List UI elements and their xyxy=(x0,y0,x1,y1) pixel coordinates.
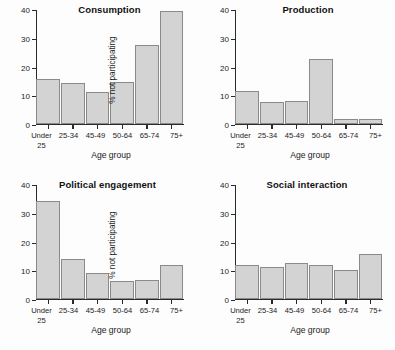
bar xyxy=(61,259,85,299)
x-axis-tick-label-line: 45-49 xyxy=(281,131,308,141)
bar xyxy=(334,119,358,124)
x-axis-label: Age group xyxy=(36,325,186,335)
x-axis-tick-label: 65-74 xyxy=(335,131,362,150)
x-axis-tick-label-line: 45-49 xyxy=(82,306,109,316)
x-axis-tick xyxy=(247,300,248,304)
x-axis-tick xyxy=(48,300,49,304)
x-axis-tick-label: Under25 xyxy=(227,131,254,150)
bar xyxy=(235,265,259,299)
x-axis-tick-label-line: 65-74 xyxy=(136,306,163,316)
x-axis-tick xyxy=(247,125,248,129)
plot-area: 010203040 xyxy=(235,185,383,300)
x-axis-tick-label-line: 75+ xyxy=(362,306,389,316)
chart-figure: Consumption % not participating 01020304… xyxy=(0,0,395,350)
bar-slot xyxy=(86,185,110,299)
bar-slot xyxy=(309,10,333,124)
x-axis-tick-label-line: 50-64 xyxy=(308,131,335,141)
x-axis-label: Age group xyxy=(235,325,385,335)
x-axis-tick-label: 65-74 xyxy=(335,306,362,325)
y-axis-tick-label: 20 xyxy=(21,238,30,247)
y-axis-tick-label: 30 xyxy=(220,209,229,218)
panel-consumption: Consumption % not participating 01020304… xyxy=(0,0,197,175)
x-axis-tick-label-line: Under xyxy=(28,131,55,141)
x-axis-tick xyxy=(271,300,272,304)
bar xyxy=(309,59,333,124)
x-tick-slot xyxy=(86,300,110,304)
x-axis-tick-label-line: 25-34 xyxy=(254,131,281,141)
x-tick-slot xyxy=(359,125,383,129)
x-axis-tick-label: Under25 xyxy=(28,306,55,325)
x-axis-tick-label: 50-64 xyxy=(109,306,136,325)
x-tick-slot xyxy=(334,125,358,129)
bar xyxy=(36,201,60,299)
x-axis-label: Age group xyxy=(235,150,385,160)
bar-slot xyxy=(86,10,110,124)
x-tick-labels: Under2525-3445-4950-6465-7475+ xyxy=(227,131,389,150)
x-axis-label: Age group xyxy=(36,150,186,160)
bar xyxy=(36,79,60,123)
x-tick-slot xyxy=(309,300,333,304)
x-axis-tick-label: 65-74 xyxy=(136,131,163,150)
bar-group xyxy=(235,10,383,124)
x-axis-tick-label-line: 25 xyxy=(227,316,254,326)
bar xyxy=(334,270,358,299)
x-axis-tick-label-line: 65-74 xyxy=(335,306,362,316)
x-axis-tick-label: 25-34 xyxy=(55,306,82,325)
x-tick-slot xyxy=(36,125,60,129)
x-tick-group xyxy=(235,300,383,304)
panel-social-interaction: Social interaction % not participating 0… xyxy=(197,175,395,350)
bar xyxy=(135,45,159,124)
x-axis-tick-label: 45-49 xyxy=(82,306,109,325)
x-axis-tick xyxy=(122,300,123,304)
x-axis-tick-label-line: 25-34 xyxy=(55,131,82,141)
x-axis-tick-label-line: 45-49 xyxy=(82,131,109,141)
bar xyxy=(309,265,333,299)
x-axis-tick-label: 75+ xyxy=(362,131,389,150)
x-axis-tick xyxy=(296,300,297,304)
y-axis-tick-label: 20 xyxy=(21,63,30,72)
bar xyxy=(160,265,184,299)
bar-slot xyxy=(36,10,60,124)
x-axis-tick-label: 45-49 xyxy=(281,306,308,325)
y-axis-tick-label: 10 xyxy=(220,267,229,276)
bar-slot xyxy=(285,10,309,124)
x-axis-tick-label-line: 25 xyxy=(227,141,254,151)
x-axis-tick-label: 75+ xyxy=(163,131,190,150)
y-axis-tick-label: 0 xyxy=(225,121,229,130)
x-tick-slot xyxy=(160,300,184,304)
bar xyxy=(285,101,309,124)
x-axis-tick-label-line: 50-64 xyxy=(109,131,136,141)
x-axis-tick-label-line: 65-74 xyxy=(136,131,163,141)
bar xyxy=(86,92,110,124)
bar-slot xyxy=(309,185,333,299)
x-tick-slot xyxy=(285,125,309,129)
x-tick-slot xyxy=(135,125,159,129)
bar-slot xyxy=(135,10,159,124)
x-axis-tick-label: 50-64 xyxy=(109,131,136,150)
x-tick-slot xyxy=(36,300,60,304)
x-axis-tick-label-line: Under xyxy=(227,131,254,141)
x-axis-tick xyxy=(48,125,49,129)
x-axis-tick-label: 45-49 xyxy=(281,131,308,150)
x-axis-tick xyxy=(271,125,272,129)
x-axis-tick-label-line: 25-34 xyxy=(55,306,82,316)
x-axis-tick xyxy=(296,125,297,129)
x-tick-slot xyxy=(285,300,309,304)
x-axis-tick xyxy=(171,125,172,129)
panel-production: Production % not participating 010203040… xyxy=(197,0,395,175)
x-axis-tick-label: 65-74 xyxy=(136,306,163,325)
y-axis-tick-label: 40 xyxy=(220,6,229,15)
bar-slot xyxy=(334,10,358,124)
x-tick-slot xyxy=(260,300,284,304)
x-axis-tick-label-line: 75+ xyxy=(163,306,190,316)
bar-slot xyxy=(359,185,383,299)
x-axis-tick xyxy=(370,125,371,129)
x-tick-slot xyxy=(235,125,259,129)
y-axis-tick-label: 40 xyxy=(21,181,30,190)
bar-slot xyxy=(359,10,383,124)
x-axis-tick-label-line: 75+ xyxy=(362,131,389,141)
bar xyxy=(260,267,284,299)
bar xyxy=(61,83,85,124)
x-axis-tick xyxy=(146,300,147,304)
bar xyxy=(235,91,259,124)
